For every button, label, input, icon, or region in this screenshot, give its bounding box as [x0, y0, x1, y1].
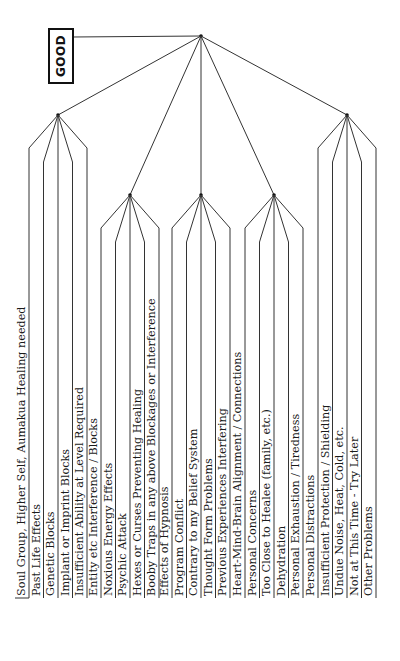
column-label: Previous Experiences Interfering: [217, 408, 229, 596]
column-label: Effects of Hypnosis: [159, 487, 171, 596]
column-label: Personal Exhaustion / Tiredness: [290, 414, 302, 596]
column-label: Entity etc Interference / Blocks: [88, 418, 100, 596]
column-label: Hexes or Curses Preventing Healing: [132, 389, 144, 596]
column-label: Other Problems: [363, 506, 375, 596]
column-label: Undue Noise, Heat, Cold, etc.: [334, 427, 346, 597]
column-label: Contrary to my Belief System: [188, 429, 200, 596]
column-label: Program Conflict: [174, 499, 186, 596]
column-label: Thought Form Problems: [203, 458, 215, 596]
column-label: Insufficient Protection / Shielding: [320, 405, 332, 596]
column-label: Booby Traps in any above Blockages or In…: [146, 298, 158, 596]
column-label: Implant or Imprint Blocks: [60, 449, 72, 596]
column-label: Psychic Attack: [117, 513, 129, 596]
column-label: Noxious Energy Effects: [103, 463, 115, 596]
column-label: Personal Concerns: [247, 490, 259, 596]
decision-tree-diagram: GOOD Soul Group, Higher Self, Aumakua He…: [0, 0, 400, 661]
good-root-label: GOOD: [54, 35, 68, 77]
column-label: Insufficient Ability at Level Required: [74, 387, 86, 596]
column-label: Personal Distractions: [305, 475, 317, 596]
column-label: Soul Group, Higher Self, Aumakua Healing…: [16, 307, 28, 596]
column-label: Dehydration: [276, 526, 288, 596]
column-label: Genetic Blocks: [45, 511, 57, 596]
column-label: Not at This Time - Try Later: [349, 437, 361, 596]
good-root-box: GOOD: [48, 28, 74, 84]
column-label: Past Life Effects: [31, 504, 43, 596]
column-label: Too Close to Healee (family, etc.): [261, 409, 273, 596]
column-label: Heart-Mind-Brain Alignment / Connections: [232, 352, 244, 596]
